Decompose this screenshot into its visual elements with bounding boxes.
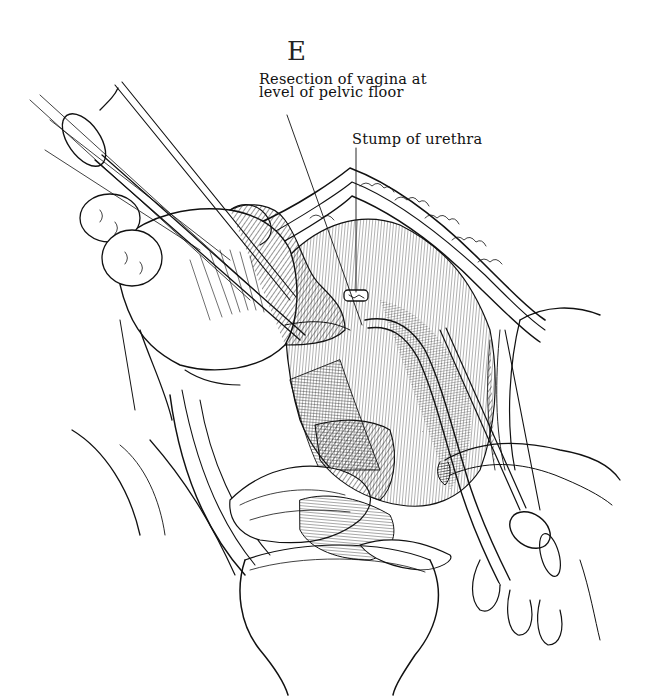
surgical-illustration: [0, 0, 645, 696]
urethra-label: Stump of urethra: [352, 131, 482, 147]
panel-letter: E: [287, 36, 306, 66]
resection-label-line2: level of pelvic floor: [259, 86, 427, 99]
retractor-right: [488, 308, 600, 470]
resection-label: Resection of vagina at level of pelvic f…: [259, 73, 427, 99]
